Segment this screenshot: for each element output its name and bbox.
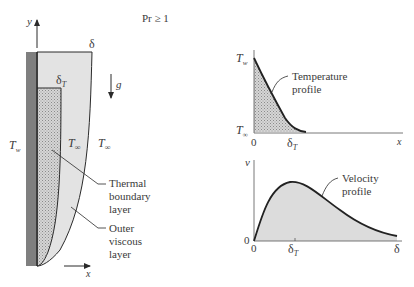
plate-diagram: y x δ δT g Tw T∞ T∞ Thermal boundary lay…	[9, 15, 153, 279]
gravity-label: g	[116, 78, 122, 90]
temperature-profile-plot: Tw T∞ 0 δT x Temperature profile	[236, 50, 403, 152]
vel-delta-t-label: δT	[288, 242, 299, 258]
x-axis-label: x	[85, 268, 91, 279]
y-axis-label: y	[26, 15, 32, 27]
delta-label: δ	[89, 37, 95, 51]
temp-tw-label: Tw	[236, 51, 248, 67]
temp-x-label: x	[396, 136, 402, 147]
vel-y-label: v	[245, 156, 250, 168]
temp-callout-text: Temperature profile	[292, 70, 350, 95]
vel-callout-text: Velocity profile	[342, 172, 381, 197]
t-wall-label: Tw	[9, 138, 21, 154]
velocity-profile-plot: v 0 0 δT δ Velocity profile	[244, 156, 402, 258]
thermal-callout-text: Thermal boundary layer	[109, 177, 153, 215]
vel-delta-label: δ	[394, 242, 400, 256]
outer-callout-text: Outer viscous layer	[109, 222, 145, 260]
heated-wall	[26, 52, 37, 266]
t-inf-outer-label: T∞	[98, 136, 111, 152]
temp-tinf-label: T∞	[236, 123, 248, 139]
temp-callout-line	[272, 76, 288, 92]
temp-origin-label: 0	[251, 136, 257, 148]
vel-y-zero-label: 0	[244, 234, 250, 246]
vel-origin-label: 0	[251, 242, 257, 254]
natural-convection-diagram: y x δ δT g Tw T∞ T∞ Thermal boundary lay…	[0, 0, 414, 287]
temp-delta-t-label: δT	[287, 136, 298, 152]
prandtl-title: Pr ≥ 1	[142, 12, 169, 24]
vel-callout-line	[322, 178, 338, 196]
